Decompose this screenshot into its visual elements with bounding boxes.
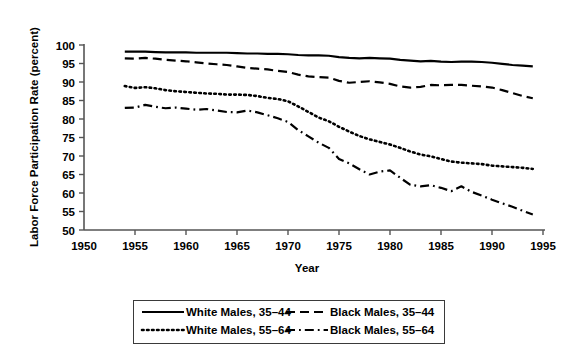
x-tick-label: 1965	[224, 240, 250, 252]
x-axis-title: Year	[295, 262, 320, 274]
x-tick-label: 1950	[71, 240, 97, 252]
x-tick-label: 1985	[428, 240, 454, 252]
x-tick-label: 1995	[530, 240, 556, 252]
x-tick-label: 1970	[275, 240, 301, 252]
x-tick-label: 1990	[479, 240, 505, 252]
y-tick-label: 90	[62, 77, 75, 89]
y-tick-label: 85	[62, 95, 75, 107]
y-tick-label: 60	[62, 188, 75, 200]
x-tick-label: 1955	[122, 240, 148, 252]
y-tick-label: 100	[56, 40, 75, 52]
x-tick-label: 1980	[377, 240, 403, 252]
y-tick-label: 55	[62, 206, 75, 218]
chart-figure: Labor Force Participation Rate (percent)…	[0, 0, 574, 361]
legend: White Males, 35–44 Black Males, 35–44 Wh…	[133, 300, 445, 344]
x-tick-label: 1975	[326, 240, 352, 252]
legend-label-black-males-35-44: Black Males, 35–44	[330, 304, 445, 321]
legend-label-white-males-35-44: White Males, 35–44	[186, 304, 306, 321]
y-tick-label: 70	[62, 151, 75, 163]
y-tick-label: 95	[62, 58, 75, 70]
y-tick-label: 50	[62, 225, 75, 237]
y-axis-title: Labor Force Participation Rate (percent)	[28, 27, 40, 247]
x-tick-label: 1960	[173, 240, 199, 252]
legend-label-white-males-55-64: White Males, 55–64	[186, 322, 306, 339]
y-tick-label: 75	[62, 132, 75, 144]
legend-label-black-males-55-64: Black Males, 55–64	[330, 322, 445, 339]
y-tick-label: 80	[62, 114, 75, 126]
y-tick-label: 65	[62, 169, 75, 181]
